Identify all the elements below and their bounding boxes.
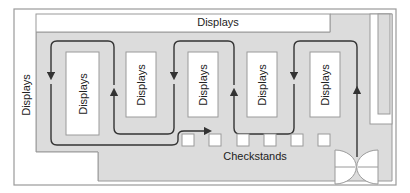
top-displays-label: Displays bbox=[197, 16, 239, 28]
checkstand-4 bbox=[264, 134, 276, 146]
lower-left-area bbox=[18, 152, 98, 182]
svg-text:Displays: Displays bbox=[135, 64, 147, 106]
checkstand-3 bbox=[237, 134, 249, 146]
store-layout-diagram: Displays Displays Displays Displays Disp… bbox=[0, 0, 410, 193]
right-service-shelf bbox=[378, 14, 390, 114]
checkstands-label: Checkstands bbox=[223, 150, 287, 162]
top-displays-area bbox=[36, 14, 330, 32]
checkstand-5 bbox=[291, 134, 303, 146]
checkstand-6 bbox=[318, 134, 330, 146]
left-displays-label: Displays bbox=[20, 74, 32, 116]
checkstand-1 bbox=[182, 134, 194, 146]
svg-text:Displays: Displays bbox=[77, 73, 89, 115]
svg-text:Displays: Displays bbox=[197, 64, 209, 106]
svg-text:Displays: Displays bbox=[319, 64, 331, 106]
svg-text:Displays: Displays bbox=[256, 64, 268, 106]
checkstand-2 bbox=[209, 134, 221, 146]
